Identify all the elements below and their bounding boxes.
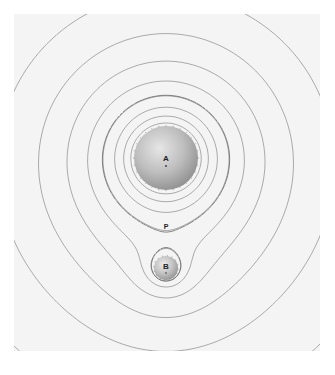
label-p: P bbox=[164, 223, 169, 230]
center-dot-a bbox=[165, 165, 167, 167]
center-dot-b bbox=[165, 272, 167, 274]
body-b: B bbox=[154, 256, 178, 280]
gravity-field-diagram: A B P bbox=[0, 0, 335, 375]
body-a: A bbox=[134, 126, 198, 190]
label-a: A bbox=[163, 154, 169, 163]
label-b: B bbox=[163, 262, 169, 271]
saddle-point: P bbox=[164, 223, 169, 230]
